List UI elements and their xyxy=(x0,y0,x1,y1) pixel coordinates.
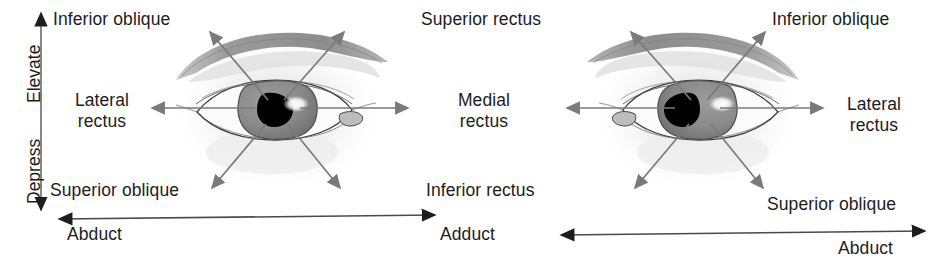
right-lateral-canthus xyxy=(778,105,799,112)
right-corneal-reflex xyxy=(709,96,735,112)
left-medial-canthus xyxy=(352,103,376,110)
right-arrow-upper-inner xyxy=(631,32,691,100)
left-eye-skin-halo xyxy=(170,30,386,194)
right-caruncle xyxy=(612,112,636,126)
right-eyebrow xyxy=(587,33,799,80)
left-eye-direction-arrows xyxy=(152,32,408,188)
left-arrow-lower-inner xyxy=(288,124,340,188)
left-brow-ridge-shadow xyxy=(188,51,380,82)
left-iris xyxy=(238,81,317,140)
left-lower-lid-line xyxy=(206,119,350,139)
left-upper-lid-crease-2 xyxy=(202,81,354,99)
right-arrow-lower-inner xyxy=(635,124,689,188)
right-label-lateral-rectus-line1: Lateral xyxy=(820,94,928,115)
right-arrow-lower-outer xyxy=(711,124,763,188)
right-arrow-upper-outer xyxy=(707,32,765,100)
left-eyebrow xyxy=(176,33,388,80)
axis-label-elevate: Elevate xyxy=(24,45,45,103)
right-eye-skin-halo xyxy=(589,30,805,194)
left-upper-lid-crease xyxy=(196,83,352,104)
center-label-superior-rectus: Superior rectus xyxy=(421,9,541,30)
right-medial-canthus xyxy=(599,103,623,110)
right-iris xyxy=(658,81,737,140)
right-axis-label-abduct: Abduct xyxy=(838,238,893,259)
left-lateral-canthus xyxy=(176,105,197,112)
left-label-lateral-rectus-line1: Lateral xyxy=(48,90,156,111)
eye-movement-diagram: Elevate Depress Inferior oblique Lateral… xyxy=(0,0,941,264)
center-label-medial-rectus-line1: Medial xyxy=(430,90,538,111)
center-axis-label-adduct: Adduct xyxy=(440,224,495,245)
right-horizontal-axis-arrow xyxy=(562,231,925,235)
center-label-inferior-rectus: Inferior rectus xyxy=(426,180,534,201)
left-label-inferior-oblique: Inferior oblique xyxy=(53,9,170,30)
left-corneal-reflex xyxy=(283,96,309,112)
left-lower-lid-shadow xyxy=(206,130,338,174)
right-palpebral-fissure xyxy=(623,80,778,140)
right-label-lateral-rectus-line2: rectus xyxy=(820,115,928,136)
right-label-inferior-oblique: Inferior oblique xyxy=(772,9,889,30)
left-caruncle xyxy=(339,112,363,126)
left-pupil xyxy=(257,93,293,127)
center-label-medial-rectus-line2: rectus xyxy=(430,111,538,132)
right-upper-lid-crease xyxy=(623,83,779,104)
right-eye-illustration xyxy=(587,30,805,194)
left-arrow-upper-inner xyxy=(284,32,344,100)
left-horizontal-axis-arrow xyxy=(60,215,435,219)
left-arrow-upper-outer xyxy=(210,32,268,100)
left-label-lateral-rectus-line2: rectus xyxy=(48,111,156,132)
right-pupil xyxy=(664,93,700,127)
left-eye-illustration xyxy=(170,30,388,194)
right-brow-ridge-shadow xyxy=(595,51,787,82)
axis-label-depress: Depress xyxy=(24,139,45,204)
left-eyebrow-hairline xyxy=(182,39,382,76)
left-axis-label-abduct: Abduct xyxy=(67,224,122,245)
right-lower-lid-shadow xyxy=(637,130,769,174)
left-palpebral-fissure xyxy=(197,80,352,140)
right-eyebrow-hairline xyxy=(593,39,793,76)
right-label-superior-oblique: Superior oblique xyxy=(767,194,896,215)
right-eye-direction-arrows xyxy=(567,32,823,188)
left-arrow-lower-outer xyxy=(212,124,266,188)
right-lower-lid-line xyxy=(625,119,769,139)
right-upper-lid-crease-2 xyxy=(621,81,773,99)
left-label-superior-oblique: Superior oblique xyxy=(50,180,179,201)
